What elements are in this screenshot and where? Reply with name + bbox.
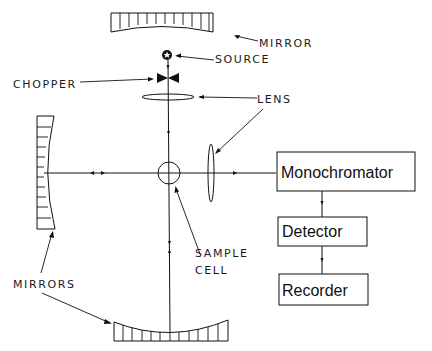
source-icon — [162, 50, 172, 60]
optical-diagram: MIRROR SOURCE CHOPPER LENS — [0, 0, 432, 351]
source-label: SOURCE — [215, 53, 270, 66]
sample-label-line1: SAMPLE — [195, 247, 249, 260]
mirror-label: MIRROR — [259, 37, 313, 50]
sample-label-line2: CELL — [195, 264, 228, 277]
bottom-mirror — [114, 320, 228, 341]
lens-label: LENS — [257, 93, 292, 106]
recorder-label: Recorder — [282, 282, 348, 299]
mirrors-label: MIRRORS — [13, 278, 76, 291]
chopper-label: CHOPPER — [13, 78, 77, 91]
top-mirror — [111, 13, 213, 32]
monochromator-label: Monochromator — [281, 164, 394, 181]
detector-label: Detector — [282, 223, 343, 240]
